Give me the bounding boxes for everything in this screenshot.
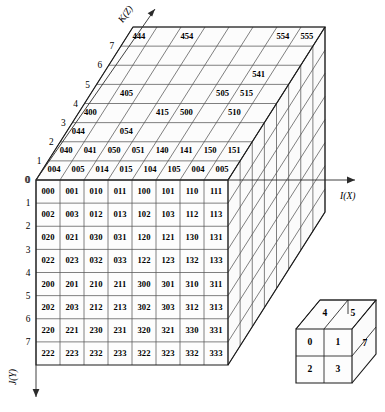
top-cell-5-6: 541: [252, 69, 265, 79]
front-cell-1-0: 002: [42, 209, 55, 219]
top-cell-3-4: 500: [180, 107, 193, 117]
top-cell-4-6: 515: [240, 88, 253, 98]
z-tick-2: 2: [49, 137, 54, 147]
front-cell-1-7: 113: [210, 209, 222, 219]
front-cell-6-5: 321: [162, 325, 175, 335]
front-cell-1-6: 112: [186, 209, 198, 219]
front-cell-6-6: 330: [186, 325, 199, 335]
front-cell-3-3: 033: [114, 255, 127, 265]
front-cell-6-1: 221: [66, 325, 79, 335]
front-cell-1-2: 012: [90, 209, 103, 219]
front-cell-3-5: 123: [162, 255, 175, 265]
front-cell-5-7: 313: [210, 302, 223, 312]
top-cell-3-3: 415: [156, 107, 169, 117]
top-cell-1-0: 040: [60, 145, 73, 155]
front-cell-3-4: 122: [138, 255, 151, 265]
top-cell-0-2: 014: [96, 164, 110, 174]
front-cell-0-6: 110: [186, 186, 198, 196]
axis-y-label: J(Y): [7, 369, 19, 385]
y-tick-7: 7: [26, 337, 31, 347]
front-cell-0-0: 000: [42, 186, 55, 196]
front-cell-0-4: 100: [138, 186, 151, 196]
z-tick-4: 4: [73, 99, 78, 109]
z-tick-3: 3: [61, 118, 66, 128]
front-cell-1-1: 003: [66, 209, 79, 219]
front-cell-5-6: 312: [186, 302, 199, 312]
front-cell-6-4: 320: [138, 325, 151, 335]
inset-cell-2: 2: [308, 363, 313, 374]
inset-cell-0: 0: [308, 336, 313, 347]
axis-x-label: I(X): [339, 190, 355, 202]
top-cell-7-0: 444: [132, 31, 146, 41]
y-tick-6: 6: [26, 314, 31, 324]
front-cell-0-7: 111: [210, 186, 222, 196]
front-cell-1-4: 102: [138, 209, 151, 219]
z-tick-6: 6: [97, 60, 102, 70]
front-cell-4-4: 300: [138, 279, 151, 289]
front-cell-2-3: 031: [114, 232, 127, 242]
top-cell-0-4: 104: [144, 164, 158, 174]
front-cell-3-6: 132: [186, 255, 199, 265]
front-cell-2-4: 120: [138, 232, 151, 242]
front-cell-4-3: 211: [114, 279, 126, 289]
top-cell-7-7: 555: [300, 31, 313, 41]
top-cell-0-5: 105: [168, 164, 181, 174]
top-cell-0-1: 005: [72, 164, 85, 174]
front-cell-0-5: 101: [162, 186, 175, 196]
inset-cube: 0 1 2 3 4 5 7: [296, 300, 376, 383]
front-cell-3-2: 032: [90, 255, 103, 265]
front-cell-4-2: 210: [90, 279, 103, 289]
inset-cell-1: 1: [336, 336, 341, 347]
top-cell-0-0: 004: [48, 164, 62, 174]
front-cell-2-0: 020: [42, 232, 55, 242]
top-cell-2-0: 044: [72, 126, 86, 136]
front-cell-1-5: 103: [162, 209, 175, 219]
top-cell-1-1: 041: [84, 145, 97, 155]
z-tick-0: 0: [25, 175, 30, 185]
y-tick-4: 4: [26, 268, 31, 278]
front-cell-7-0: 222: [42, 348, 55, 358]
top-cell-0-7: 005: [216, 164, 229, 174]
front-cell-7-6: 332: [186, 348, 199, 358]
front-cell-2-6: 130: [186, 232, 199, 242]
front-cell-5-0: 202: [42, 302, 55, 312]
top-cell-1-3: 051: [132, 145, 145, 155]
top-cell-1-6: 150: [204, 145, 217, 155]
front-cell-7-5: 323: [162, 348, 175, 358]
front-cell-3-0: 022: [42, 255, 55, 265]
z-tick-1: 1: [37, 156, 42, 166]
y-tick-2: 2: [26, 221, 31, 231]
axis-z-label: K(Z): [115, 3, 136, 26]
front-cell-5-2: 212: [90, 302, 103, 312]
front-cell-5-4: 302: [138, 302, 151, 312]
z-tick-5: 5: [85, 80, 90, 90]
front-cell-7-4: 322: [138, 348, 151, 358]
front-cell-6-2: 230: [90, 325, 103, 335]
front-cell-2-1: 021: [66, 232, 79, 242]
top-cell-1-5: 141: [180, 145, 193, 155]
front-cell-2-5: 121: [162, 232, 175, 242]
cube-diagram-svg: I(X) J(Y) K(Z) 01234567 01234567 0000010…: [0, 0, 385, 412]
top-cell-3-6: 510: [228, 107, 241, 117]
y-axis-ticks: 01234567: [26, 175, 31, 347]
front-cell-5-1: 203: [66, 302, 79, 312]
front-cell-7-2: 232: [90, 348, 103, 358]
inset-cell-7: 7: [363, 337, 368, 348]
front-cell-5-3: 213: [114, 302, 127, 312]
front-cell-4-5: 301: [162, 279, 175, 289]
front-cell-4-7: 311: [210, 279, 222, 289]
axis-y: J(Y): [7, 180, 39, 397]
front-cell-4-6: 310: [186, 279, 199, 289]
y-tick-1: 1: [26, 198, 31, 208]
top-cell-4-1: 405: [120, 88, 133, 98]
front-cell-1-3: 013: [114, 209, 127, 219]
y-tick-3: 3: [26, 245, 31, 255]
inset-cell-5: 5: [351, 307, 356, 318]
morton-order-cube-figure: I(X) J(Y) K(Z) 01234567 01234567 0000010…: [0, 0, 385, 412]
front-cell-6-0: 220: [42, 325, 55, 335]
front-cell-7-3: 233: [114, 348, 127, 358]
front-cell-4-0: 200: [42, 279, 55, 289]
top-cell-1-4: 140: [156, 145, 169, 155]
front-cell-2-7: 131: [210, 232, 223, 242]
top-cell-0-6: 004: [192, 164, 206, 174]
